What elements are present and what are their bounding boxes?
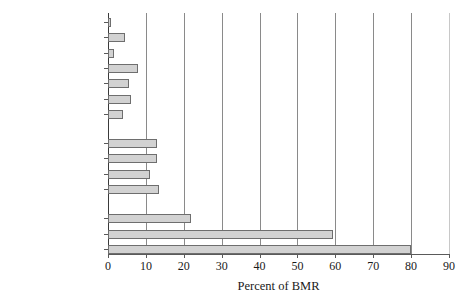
bar-horse <box>108 49 114 58</box>
x-tick-label-0: 0 <box>88 259 128 273</box>
gridline-40 <box>260 13 261 254</box>
x-tick-label-30: 30 <box>202 259 242 273</box>
bar-baboon <box>108 154 157 163</box>
gridline-90 <box>449 13 450 254</box>
x-tick-label-20: 20 <box>164 259 204 273</box>
gridline-30 <box>222 13 223 254</box>
gridline-80 <box>411 13 412 254</box>
x-tick-label-40: 40 <box>240 259 280 273</box>
bar-mouse <box>108 64 138 73</box>
x-tick-60 <box>335 254 336 258</box>
x-tick-90 <box>449 254 450 258</box>
x-tick-80 <box>411 254 412 258</box>
x-tick-label-60: 60 <box>315 259 355 273</box>
x-tick-40 <box>260 254 261 258</box>
x-axis-title: Percent of BMR <box>108 279 449 294</box>
x-tick-label-10: 10 <box>126 259 166 273</box>
x-tick-10 <box>146 254 147 258</box>
x-tick-20 <box>184 254 185 258</box>
x-tick-label-80: 80 <box>391 259 431 273</box>
bar-dog <box>108 110 123 119</box>
bar-fin-whale <box>108 18 111 27</box>
x-tick-label-50: 50 <box>277 259 317 273</box>
x-axis-line <box>108 254 449 255</box>
bar-elephant-nose-fish <box>108 230 333 239</box>
x-tick-50 <box>297 254 298 258</box>
bar-rabbit <box>108 95 131 104</box>
bar-orangutan <box>108 170 150 179</box>
x-tick-label-70: 70 <box>353 259 393 273</box>
bar-baby-human <box>108 245 411 254</box>
gridline-50 <box>297 13 298 254</box>
gridline-60 <box>335 13 336 254</box>
bar-chimpanzee <box>108 185 159 194</box>
bar-macaque <box>108 139 157 148</box>
bar-dolphin <box>108 33 125 42</box>
x-tick-70 <box>373 254 374 258</box>
bar-rat <box>108 79 129 88</box>
x-tick-label-90: 90 <box>429 259 460 273</box>
bar-adult-human <box>108 214 191 223</box>
gridline-70 <box>373 13 374 254</box>
x-tick-0 <box>108 254 109 258</box>
x-tick-30 <box>222 254 223 258</box>
